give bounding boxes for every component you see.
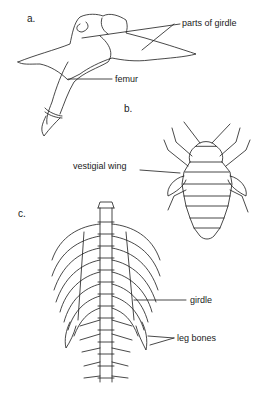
annotation-vestigial-wing: vestigial wing (73, 162, 127, 171)
skeleton-drawing (52, 202, 160, 382)
panel-label-b: b. (124, 104, 132, 114)
panel-label-a: a. (27, 14, 35, 24)
girdle-right (126, 232, 134, 320)
girdle-femur-drawing (18, 14, 196, 136)
annotation-girdle: girdle (190, 296, 212, 305)
panel-label-c: c. (18, 209, 26, 219)
annotation-parts-of-girdle: parts of girdle (182, 19, 237, 28)
diagram-drawings (0, 0, 268, 394)
ribs-right (112, 224, 160, 378)
spine-vertebrae (98, 208, 114, 382)
annotation-femur: femur (115, 75, 138, 84)
diagram-canvas: a. b. c. parts of girdle femur vestigial… (0, 0, 268, 394)
leader-lines (68, 24, 186, 345)
ribs-left (52, 224, 100, 378)
insect-drawing (164, 122, 250, 239)
annotation-leg-bones: leg bones (177, 334, 216, 343)
